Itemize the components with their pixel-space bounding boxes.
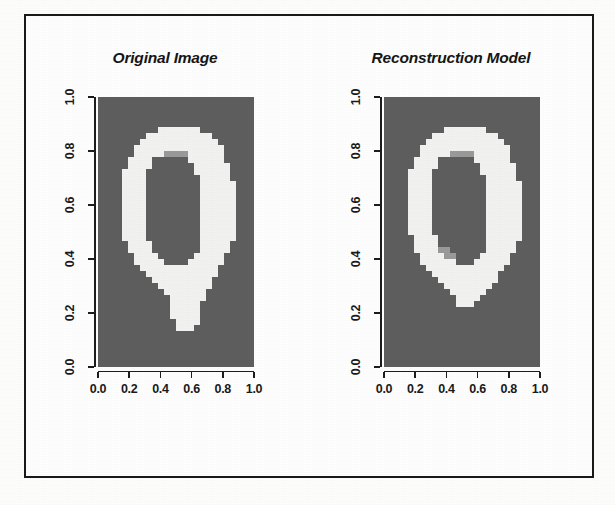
y-tick-label: 1.0 xyxy=(56,89,84,105)
y-tick-label: 0.2 xyxy=(342,305,370,321)
y-tick-label-text: 0.6 xyxy=(63,197,77,213)
y-tick-label-text: 0.2 xyxy=(349,305,363,321)
y-tick-label-text: 0.6 xyxy=(349,197,363,213)
x-tick-label: 0.8 xyxy=(492,382,526,396)
x-tick-label: 0.0 xyxy=(367,382,401,396)
y-tick-label-text: 0.8 xyxy=(63,143,77,159)
x-tick-label: 0.8 xyxy=(206,382,240,396)
y-tick-mark xyxy=(88,312,94,314)
x-tick-label: 0.0 xyxy=(81,382,115,396)
x-tick-mark xyxy=(191,372,193,378)
x-tick-label: 0.6 xyxy=(461,382,495,396)
x-tick-label: 0.2 xyxy=(398,382,432,396)
x-tick-mark xyxy=(508,372,510,378)
y-tick-label: 0.8 xyxy=(342,143,370,159)
x-tick-label: 1.0 xyxy=(237,382,271,396)
y-tick-label: 0.2 xyxy=(56,305,84,321)
x-tick-mark xyxy=(160,372,162,378)
x-axis-line-reconstruction xyxy=(384,371,540,373)
x-tick-mark xyxy=(97,372,99,378)
x-tick-mark xyxy=(539,372,541,378)
y-tick-mark xyxy=(88,96,94,98)
y-tick-label-text: 0.2 xyxy=(63,305,77,321)
x-axis-line-original xyxy=(98,371,254,373)
x-tick-label: 0.4 xyxy=(429,382,463,396)
y-axis-line-original xyxy=(94,97,96,367)
y-tick-label: 0.6 xyxy=(342,197,370,213)
y-tick-label-text: 0.4 xyxy=(349,251,363,267)
y-tick-mark xyxy=(374,366,380,368)
panel-reconstruction-model: Reconstruction Model 0.00.20.40.60.81.0 … xyxy=(316,16,586,476)
y-tick-label-text: 0.8 xyxy=(349,143,363,159)
y-tick-label: 0.8 xyxy=(56,143,84,159)
x-tick-mark xyxy=(446,372,448,378)
x-tick-mark xyxy=(128,372,130,378)
y-tick-mark xyxy=(374,258,380,260)
y-tick-label-text: 0.4 xyxy=(63,251,77,267)
x-tick-label: 1.0 xyxy=(523,382,557,396)
y-tick-label: 0.4 xyxy=(342,251,370,267)
y-tick-mark xyxy=(374,150,380,152)
x-tick-mark xyxy=(222,372,224,378)
raster-digit-reconstruction xyxy=(384,97,540,367)
scanned-page: Original Image 0.00.20.40.60.81.0 0.00.2… xyxy=(0,0,615,505)
x-tick-mark xyxy=(383,372,385,378)
plot-area-reconstruction xyxy=(384,97,540,367)
y-tick-label-text: 1.0 xyxy=(349,89,363,105)
y-tick-mark xyxy=(374,312,380,314)
y-tick-mark xyxy=(374,96,380,98)
y-tick-mark xyxy=(88,150,94,152)
y-tick-label-text: 1.0 xyxy=(63,89,77,105)
y-tick-label: 0.4 xyxy=(56,251,84,267)
panel-title-original: Original Image xyxy=(30,49,300,67)
panel-original-image: Original Image 0.00.20.40.60.81.0 0.00.2… xyxy=(30,16,300,476)
x-tick-mark xyxy=(253,372,255,378)
x-tick-label: 0.4 xyxy=(143,382,177,396)
y-tick-label: 0.0 xyxy=(342,359,370,375)
y-tick-label: 1.0 xyxy=(342,89,370,105)
page-caption-remnant xyxy=(26,489,591,503)
y-tick-label: 0.6 xyxy=(56,197,84,213)
y-tick-mark xyxy=(88,258,94,260)
y-tick-label-text: 0.0 xyxy=(349,359,363,375)
y-tick-mark xyxy=(88,366,94,368)
x-tick-label: 0.2 xyxy=(112,382,146,396)
y-tick-label: 0.0 xyxy=(56,359,84,375)
y-tick-mark xyxy=(88,204,94,206)
figure-frame: Original Image 0.00.20.40.60.81.0 0.00.2… xyxy=(24,14,594,478)
panel-title-reconstruction: Reconstruction Model xyxy=(316,49,586,67)
x-tick-mark xyxy=(477,372,479,378)
y-axis-line-reconstruction xyxy=(380,97,382,367)
raster-digit-original xyxy=(98,97,254,367)
y-tick-mark xyxy=(374,204,380,206)
x-tick-label: 0.6 xyxy=(175,382,209,396)
plot-area-original xyxy=(98,97,254,367)
x-tick-mark xyxy=(414,372,416,378)
y-tick-label-text: 0.0 xyxy=(63,359,77,375)
